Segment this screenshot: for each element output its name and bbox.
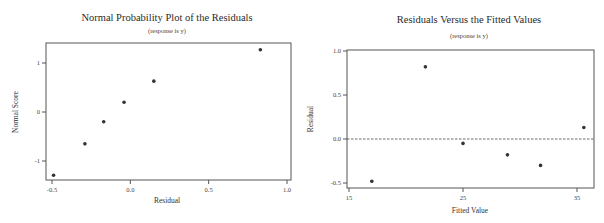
x-tick-label: 0.0 bbox=[126, 186, 134, 193]
y-tick-label: 0.5 bbox=[333, 91, 341, 98]
data-point bbox=[424, 65, 428, 69]
x-axis-label: Fitted Value bbox=[452, 206, 489, 215]
data-point bbox=[461, 142, 465, 146]
data-point bbox=[582, 126, 586, 130]
chart-subtitle: (response is y) bbox=[148, 27, 186, 35]
x-tick-label: 25 bbox=[460, 194, 467, 201]
y-tick-label: 1 bbox=[37, 59, 40, 66]
y-axis-label: Residual bbox=[306, 106, 315, 132]
y-tick-label: 1.0 bbox=[333, 47, 341, 54]
x-axis-label: Residual bbox=[154, 196, 180, 205]
data-point bbox=[122, 100, 126, 104]
data-point bbox=[102, 120, 106, 124]
data-point bbox=[152, 79, 156, 83]
data-point bbox=[506, 153, 510, 157]
y-tick-label: -1 bbox=[35, 157, 40, 164]
x-tick-label: 15 bbox=[346, 194, 353, 201]
x-tick-label: 1.0 bbox=[283, 186, 291, 193]
data-point bbox=[370, 179, 374, 183]
chart-title: Normal Probability Plot of the Residuals bbox=[81, 12, 252, 23]
y-tick-label: 0 bbox=[37, 108, 40, 115]
plot-frame bbox=[46, 43, 291, 180]
x-tick-label: 0.5 bbox=[205, 186, 213, 193]
x-tick-label: 35 bbox=[574, 194, 581, 201]
data-point bbox=[539, 164, 543, 168]
charts-canvas: Normal Probability Plot of the Residuals… bbox=[0, 0, 604, 223]
residuals-vs-fitted-plot: Residuals Versus the Fitted Values (resp… bbox=[306, 14, 594, 215]
plot-frame bbox=[347, 50, 594, 188]
normal-probability-plot: Normal Probability Plot of the Residuals… bbox=[11, 12, 291, 205]
chart-title: Residuals Versus the Fitted Values bbox=[397, 14, 541, 25]
x-tick-label: -0.5 bbox=[47, 186, 57, 193]
y-tick-label: -0.5 bbox=[331, 179, 341, 186]
y-axis-label: Normal Score bbox=[11, 90, 20, 133]
chart-subtitle: (response is y) bbox=[450, 32, 488, 40]
y-tick-label: 0.0 bbox=[333, 135, 341, 142]
data-point bbox=[259, 48, 263, 52]
data-point bbox=[83, 142, 87, 146]
data-point bbox=[52, 173, 56, 177]
